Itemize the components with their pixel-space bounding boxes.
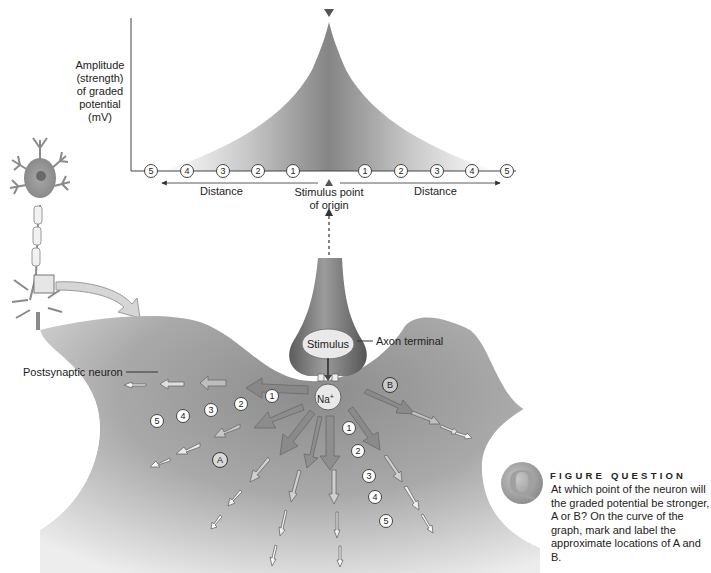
channel-left xyxy=(318,374,324,381)
marker-left-5: 5 xyxy=(144,164,158,178)
syn-down-1: 1 xyxy=(342,421,356,435)
figure-question-body: At which point of the neuron will the gr… xyxy=(551,483,711,564)
magnify-arrow-icon xyxy=(56,282,140,318)
point-b: B xyxy=(382,377,398,393)
marker-right-4: 4 xyxy=(465,164,479,178)
y-label-line: (mV) xyxy=(67,111,133,124)
y-axis-label: Amplitude (strength) of graded potential… xyxy=(67,59,133,124)
postsynaptic-neuron-label: Postsynaptic neuron xyxy=(23,366,123,379)
origin-label: Stimulus point of origin xyxy=(289,186,369,212)
syn-left-2: 2 xyxy=(234,397,248,411)
marker-right-1: 1 xyxy=(358,164,372,178)
stimulus-label: Stimulus xyxy=(304,338,352,351)
figure-question-title: FIGURE QUESTION xyxy=(550,470,686,481)
question-icon: Q xyxy=(506,462,538,502)
y-label-line: Amplitude xyxy=(67,59,133,72)
y-label-line: potential xyxy=(67,98,133,111)
graded-potential-curve xyxy=(163,22,495,171)
syn-left-5: 5 xyxy=(150,414,164,428)
syn-down-5: 5 xyxy=(379,514,393,528)
peak-marker-icon xyxy=(324,9,334,17)
axon-terminal-label: Axon terminal xyxy=(376,335,443,348)
ion-symbol: Na xyxy=(317,394,330,405)
syn-down-2: 2 xyxy=(351,444,365,458)
syn-down-4: 4 xyxy=(368,490,382,504)
origin-label-line: of origin xyxy=(289,199,369,212)
syn-left-3: 3 xyxy=(204,403,218,417)
y-label-line: of graded xyxy=(67,85,133,98)
marker-left-2: 2 xyxy=(251,164,265,178)
marker-left-3: 3 xyxy=(216,164,230,178)
marker-left-4: 4 xyxy=(180,164,194,178)
zoom-region-box xyxy=(34,275,54,293)
syn-left-4: 4 xyxy=(176,409,190,423)
marker-right-3: 3 xyxy=(430,164,444,178)
sodium-ion-label: Na+ xyxy=(317,390,334,406)
y-label-line: (strength) xyxy=(67,72,133,85)
marker-right-2: 2 xyxy=(394,164,408,178)
point-a: A xyxy=(212,452,228,468)
syn-left-1: 1 xyxy=(265,389,279,403)
myelin-segments xyxy=(32,206,42,266)
channel-right xyxy=(332,374,338,381)
syn-down-3: 3 xyxy=(362,469,376,483)
origin-label-line: Stimulus point xyxy=(289,186,369,199)
left-distance-label: Distance xyxy=(200,185,243,198)
origin-marker-icon xyxy=(325,179,333,186)
neuron-nucleus xyxy=(36,171,46,181)
ion-charge: + xyxy=(330,393,334,400)
marker-right-5: 5 xyxy=(500,164,514,178)
right-distance-label: Distance xyxy=(414,185,457,198)
marker-left-1: 1 xyxy=(286,164,300,178)
